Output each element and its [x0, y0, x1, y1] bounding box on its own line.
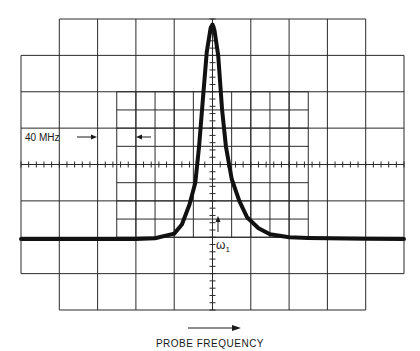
x-axis-label: PROBE FREQUENCY [156, 338, 264, 349]
marker-subscript: 1 [225, 245, 230, 254]
spectrum-figure: 40 MHz ω1 PROBE FREQUENCY [0, 0, 420, 351]
bandwidth-annotation: 40 MHz [25, 132, 151, 143]
frequency-arrow-right-icon [232, 325, 241, 331]
bandwidth-arrow-right-head-icon [91, 135, 97, 140]
omega-marker: ω1 [216, 216, 231, 254]
marker-label: ω1 [216, 238, 230, 254]
bandwidth-label: 40 MHz [25, 132, 59, 143]
x-axis-direction: PROBE FREQUENCY [156, 325, 264, 349]
bandwidth-arrow-left-head-icon [136, 135, 142, 140]
